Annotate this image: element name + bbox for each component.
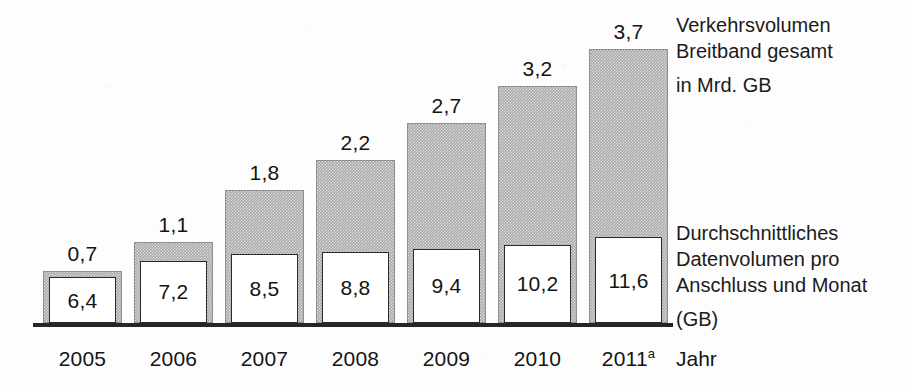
legend-total-line-1: Verkehrsvolumen — [676, 12, 833, 38]
bar-total-label-2007: 1,8 — [225, 162, 304, 183]
bar-total-label-2006: 1,1 — [134, 214, 213, 235]
bar-average-box-2010: 10,2 — [504, 245, 571, 323]
legend-total-line-3: in Mrd. GB — [676, 72, 833, 98]
bar-average-label-2007: 8,5 — [250, 278, 280, 299]
bar-average-box-2008: 8,8 — [322, 252, 389, 323]
x-axis-tick-2009: 2009 — [399, 348, 494, 369]
x-axis-title: Jahr — [676, 348, 717, 369]
bar-average-label-2005: 6,4 — [68, 290, 98, 311]
legend-average-line-4: (GB) — [676, 306, 867, 332]
bar-average-box-2009: 9,4 — [413, 249, 480, 323]
x-axis-tick-footnote-marker: a — [648, 346, 655, 361]
chart-container: 0,76,420051,17,220061,88,520072,28,82008… — [0, 0, 910, 390]
x-axis-tick-2006: 2006 — [126, 348, 221, 369]
legend-average-line-1: Durchschnittliches — [676, 220, 867, 246]
x-axis-line — [33, 323, 673, 327]
bar-total-label-2011: 3,7 — [589, 21, 668, 42]
legend-total-volume: Verkehrsvolumen Breitband gesamt in Mrd.… — [676, 12, 833, 98]
x-axis-tick-2010: 2010 — [490, 348, 585, 369]
x-axis-tick-2011: 2011a — [581, 348, 676, 369]
bar-average-box-2007: 8,5 — [231, 254, 298, 323]
x-axis-tick-2007: 2007 — [217, 348, 312, 369]
bar-average-box-2011: 11,6 — [595, 237, 662, 323]
bar-average-label-2006: 7,2 — [159, 281, 189, 302]
bar-average-label-2010: 10,2 — [517, 273, 559, 294]
bar-average-box-2005: 6,4 — [49, 277, 116, 323]
bar-total-label-2010: 3,2 — [498, 58, 577, 79]
bar-average-label-2011: 11,6 — [608, 270, 648, 291]
bar-average-box-2006: 7,2 — [140, 261, 207, 323]
bar-total-label-2009: 2,7 — [407, 95, 486, 116]
legend-average-volume: Durchschnittliches Datenvolumen pro Ansc… — [676, 220, 867, 332]
bar-average-label-2008: 8,8 — [341, 277, 371, 298]
legend-total-line-2: Breitband gesamt — [676, 38, 833, 64]
bar-average-label-2009: 9,4 — [432, 275, 462, 296]
bar-total-label-2008: 2,2 — [316, 132, 395, 153]
legend-average-line-3: Anschluss und Monat — [676, 272, 867, 298]
legend-average-line-2: Datenvolumen pro — [676, 246, 867, 272]
bar-total-label-2005: 0,7 — [43, 243, 122, 264]
x-axis-tick-2008: 2008 — [308, 348, 403, 369]
x-axis-tick-2005: 2005 — [35, 348, 130, 369]
